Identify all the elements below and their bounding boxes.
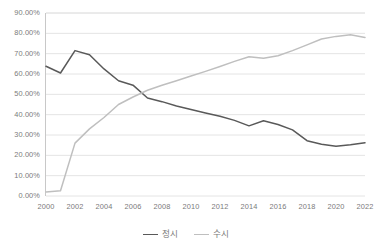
- y-axis-tick-label: 20.00%: [0, 151, 40, 158]
- y-axis-tick-label: 10.00%: [0, 172, 40, 179]
- y-axis-tick-label: 60.00%: [0, 70, 40, 77]
- legend-item-2[interactable]: 수시: [194, 230, 229, 239]
- y-axis-tick-label: 30.00%: [0, 131, 40, 138]
- y-axis-tick-label: 70.00%: [0, 50, 40, 57]
- x-axis-tick-label: 2016: [263, 203, 293, 210]
- y-axis-tick-label: 90.00%: [0, 9, 40, 16]
- chart-legend: 정시수시: [0, 230, 372, 239]
- x-axis-tick-label: 2014: [234, 203, 264, 210]
- series-line-1: [46, 51, 365, 147]
- x-axis-tick-label: 2004: [89, 203, 119, 210]
- x-axis-tick-label: 2002: [60, 203, 90, 210]
- legend-label: 수시: [213, 230, 229, 239]
- legend-label: 정시: [162, 230, 178, 239]
- x-axis-tick-label: 2018: [292, 203, 322, 210]
- legend-item-1[interactable]: 정시: [143, 230, 178, 239]
- series-lines: [46, 35, 365, 192]
- x-axis-tick-label: 2010: [176, 203, 206, 210]
- y-axis-tick-label: 80.00%: [0, 29, 40, 36]
- x-axis-tick-label: 2022: [350, 203, 378, 210]
- x-axis-tick-label: 2012: [205, 203, 235, 210]
- legend-line-swatch: [194, 234, 209, 235]
- legend-line-swatch: [143, 234, 158, 235]
- y-axis-tick-label: 50.00%: [0, 90, 40, 97]
- y-axis-tick-label: 0.00%: [0, 192, 40, 199]
- x-axis-tick-label: 2008: [147, 203, 177, 210]
- x-axis-tick-label: 2000: [31, 203, 61, 210]
- x-axis-tick-label: 2020: [321, 203, 351, 210]
- x-axis-tick-label: 2006: [118, 203, 148, 210]
- y-axis-tick-label: 40.00%: [0, 111, 40, 118]
